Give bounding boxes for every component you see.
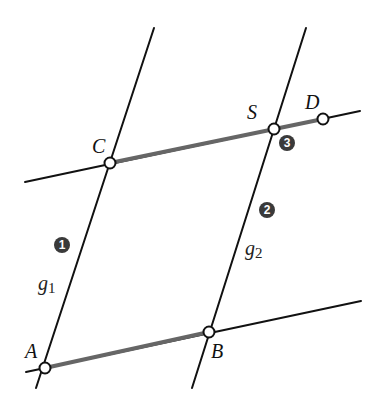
label-s: S <box>247 101 257 123</box>
line-g1 <box>36 28 154 388</box>
point-s <box>269 124 280 135</box>
step-badge-2: 2 <box>259 202 275 218</box>
label-b: B <box>211 340 223 362</box>
label-g1-name: g <box>38 272 48 295</box>
badge-2-number: 2 <box>264 203 271 217</box>
label-g1: g1 <box>38 272 56 296</box>
point-a <box>40 363 51 374</box>
point-b <box>204 327 215 338</box>
parallelogram-construction-diagram: A B C S D g1 g2 1 2 3 <box>0 0 384 413</box>
label-c: C <box>92 135 106 157</box>
badge-1-number: 1 <box>59 238 66 252</box>
label-g2-name: g <box>245 237 255 260</box>
label-a: A <box>23 340 38 362</box>
badge-3-number: 3 <box>284 136 291 150</box>
step-badge-3: 3 <box>279 135 295 151</box>
label-d: D <box>304 91 320 113</box>
label-g1-subscript: 1 <box>48 280 56 296</box>
step-badge-1: 1 <box>54 237 70 253</box>
segment-ab <box>45 332 209 368</box>
point-c <box>105 158 116 169</box>
point-d <box>318 114 329 125</box>
label-g2: g2 <box>245 237 263 261</box>
label-g2-subscript: 2 <box>255 245 263 261</box>
